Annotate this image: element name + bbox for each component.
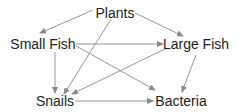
- food-web-diagram: Plants Small Fish Large Fish Snails Bact…: [0, 0, 237, 112]
- edge-large-fish-to-snails: [72, 48, 167, 94]
- node-plants: Plants: [96, 5, 135, 21]
- edge-small-fish-to-bacteria: [76, 46, 155, 90]
- node-snails: Snails: [36, 93, 74, 109]
- edge-plants-to-snails: [64, 19, 111, 94]
- edges-group: [40, 10, 196, 101]
- nodes-group: Plants Small Fish Large Fish Snails Bact…: [10, 5, 229, 109]
- edge-plants-to-large-fish: [135, 13, 183, 36]
- edge-large-fish-to-bacteria: [182, 55, 196, 92]
- node-small-fish: Small Fish: [10, 36, 75, 52]
- node-bacteria: Bacteria: [155, 93, 207, 109]
- node-large-fish: Large Fish: [163, 36, 229, 52]
- edge-plants-to-small-fish: [40, 10, 93, 33]
